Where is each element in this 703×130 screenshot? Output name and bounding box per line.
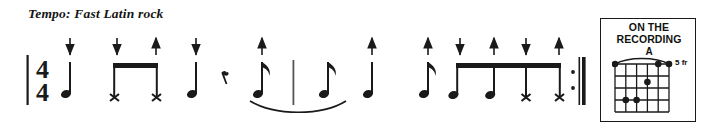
chord-diagram-box: ON THE RECORDING A 5 fr — [600, 18, 696, 122]
beam — [456, 63, 561, 68]
eighth-flag — [428, 62, 436, 76]
finger-dot — [612, 61, 618, 68]
note-eighth — [418, 62, 436, 99]
note-quarter — [362, 62, 374, 99]
beamed-group — [447, 63, 564, 101]
barline-start — [27, 55, 29, 105]
slur — [250, 101, 346, 112]
note-quarter — [186, 62, 198, 99]
rhythm-notation-staff: 4 4 — [0, 0, 600, 130]
finger-dot — [666, 61, 673, 68]
finger-dot — [655, 61, 662, 68]
beam — [113, 63, 158, 68]
chord-header-line1: ON THE — [601, 22, 697, 34]
repeat-dot — [571, 70, 575, 74]
note-eighth — [318, 62, 336, 99]
eighth-flag — [328, 62, 336, 76]
barline-repeat-end — [571, 57, 586, 105]
note-quarter — [60, 62, 72, 99]
note-eighth — [252, 62, 270, 99]
beamed-group — [110, 63, 161, 101]
finger-dot — [644, 79, 651, 86]
strum-arrow-group — [70, 38, 559, 55]
music-notation-stage: Tempo: Fast Latin rock 4 4 — [0, 0, 703, 130]
chord-fretboard-grid — [612, 55, 684, 117]
eighth-flag — [262, 62, 270, 76]
barline-middle — [293, 60, 295, 105]
finger-dot — [623, 97, 630, 104]
finger-dot — [633, 97, 640, 104]
eighth-rest — [221, 71, 228, 84]
time-signature-denominator: 4 — [36, 78, 49, 107]
chord-header-line2: RECORDING — [601, 34, 697, 46]
repeat-dot — [571, 86, 575, 90]
chord-diagram-header: ON THE RECORDING — [601, 22, 697, 45]
